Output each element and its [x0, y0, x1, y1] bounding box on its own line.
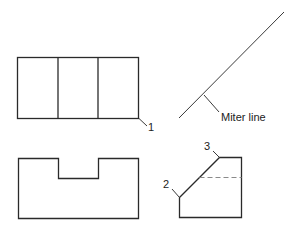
top-view: [18, 58, 139, 119]
callout-3-label: 3: [204, 140, 210, 152]
miter-line-leader: [204, 95, 219, 112]
projection-diagram: 1 Miter line 2 3: [0, 0, 296, 230]
callout-2-leader: [172, 189, 180, 198]
callout-1: 1: [139, 119, 154, 134]
front-view-outline: [19, 159, 139, 219]
callout-2: 2: [163, 178, 180, 198]
callout-3-leader: [213, 151, 220, 158]
side-view: [180, 158, 242, 218]
front-view: [19, 159, 139, 219]
callout-3: 3: [204, 140, 220, 158]
top-view-outline: [18, 58, 139, 119]
callout-2-label: 2: [163, 178, 169, 190]
miter-line: [179, 12, 284, 118]
side-view-outline: [180, 158, 242, 218]
callout-1-leader: [139, 119, 147, 127]
miter-line-group: Miter line: [179, 12, 284, 123]
miter-line-label: Miter line: [221, 111, 266, 123]
callout-1-label: 1: [148, 121, 154, 133]
